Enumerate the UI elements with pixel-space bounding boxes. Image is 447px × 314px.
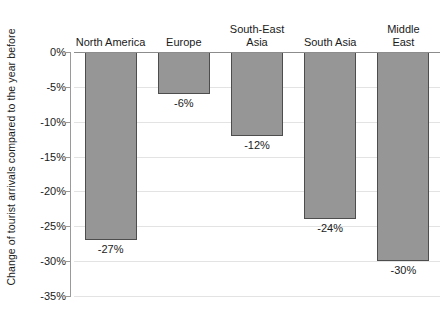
bar-group[interactable]: -30%: [367, 52, 440, 296]
bar[interactable]: [377, 52, 429, 261]
y-axis-tick-label: -15%: [40, 151, 66, 163]
bars-layer: -27%-6%-12%-24%-30%: [74, 52, 440, 296]
gridline: [74, 296, 440, 297]
y-axis-tick-mark: [65, 52, 71, 53]
category-label: Middle East: [385, 23, 422, 49]
bar-value-label: -30%: [391, 264, 417, 276]
y-axis-title: Change of tourist arrivals compared to t…: [0, 0, 22, 314]
y-axis-title-text: Change of tourist arrivals compared to t…: [5, 28, 17, 285]
category-label: South-East Asia: [230, 23, 284, 49]
bar[interactable]: [85, 52, 137, 240]
bar-chart: Change of tourist arrivals compared to t…: [0, 0, 447, 314]
bar-group[interactable]: -12%: [220, 52, 293, 296]
bar-value-label: -24%: [317, 222, 343, 234]
y-axis-tick-label: -10%: [40, 116, 66, 128]
plot-area: -27%-6%-12%-24%-30%: [74, 52, 440, 296]
category-label: North America: [76, 36, 146, 49]
y-axis-tick-mark: [65, 191, 71, 192]
y-axis-tick-mark: [65, 261, 71, 262]
y-axis-tick-label: -30%: [40, 255, 66, 267]
y-axis-line: [70, 52, 71, 296]
y-axis-tick-mark: [65, 296, 71, 297]
y-axis-tick-mark: [65, 122, 71, 123]
bar[interactable]: [231, 52, 283, 136]
y-axis-tick-mark: [65, 157, 71, 158]
y-axis-tick-label: -35%: [40, 290, 66, 302]
zero-baseline: [74, 52, 440, 53]
bar-value-label: -12%: [244, 139, 270, 151]
bar-group[interactable]: -27%: [74, 52, 147, 296]
y-axis-tick-mark: [65, 87, 71, 88]
category-label: Europe: [166, 36, 201, 49]
bar-value-label: -6%: [174, 97, 194, 109]
y-axis-tick-label: 0%: [50, 46, 66, 58]
bar[interactable]: [158, 52, 210, 94]
y-axis-tick-mark: [65, 226, 71, 227]
category-label: South Asia: [304, 36, 357, 49]
bar-group[interactable]: -24%: [294, 52, 367, 296]
x-axis-category-labels: North AmericaEuropeSouth-East AsiaSouth …: [74, 0, 440, 52]
bar-value-label: -27%: [98, 243, 124, 255]
y-axis-tick-label: -5%: [46, 81, 66, 93]
y-axis-tick-labels: 0%-5%-10%-15%-20%-25%-30%-35%: [22, 0, 70, 314]
y-axis-tick-label: -20%: [40, 185, 66, 197]
bar-group[interactable]: -6%: [147, 52, 220, 296]
y-axis-tick-label: -25%: [40, 220, 66, 232]
bar[interactable]: [304, 52, 356, 219]
